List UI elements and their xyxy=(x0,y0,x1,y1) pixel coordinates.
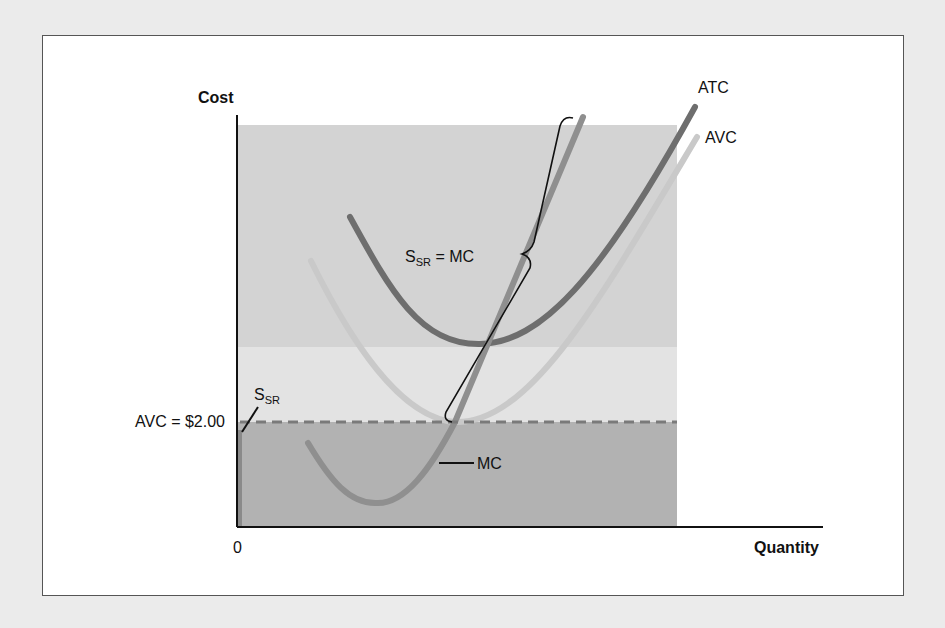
atc-label: ATC xyxy=(698,79,729,96)
avc-value-label: AVC = $2.00 xyxy=(135,413,225,430)
y-axis-label: Cost xyxy=(198,89,234,106)
region-lower xyxy=(238,422,677,527)
mc-label: MC xyxy=(477,455,502,472)
origin-label: 0 xyxy=(233,539,242,556)
page: Cost Quantity 0 ATC AVC MC SSR = MC SSR … xyxy=(0,0,945,628)
x-axis-label: Quantity xyxy=(754,539,819,556)
avc-label: AVC xyxy=(705,129,737,146)
region-upper xyxy=(238,125,677,347)
cost-curves-diagram: Cost Quantity 0 ATC AVC MC SSR = MC SSR … xyxy=(0,0,945,628)
